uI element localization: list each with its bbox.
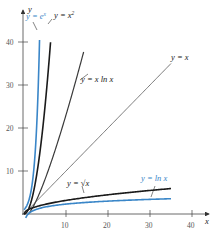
y-tick-label-30: 30 [6,81,14,90]
curve-exp [24,40,40,210]
x-tick-label-10: 10 [61,221,69,230]
curve-id [24,64,171,215]
curve-ln [26,199,171,218]
x-tick-label-40: 40 [187,221,195,230]
label-identity: y = x [170,52,189,62]
y-tick-label-10: 10 [6,167,14,176]
label-sqrt: y = √x [66,178,89,188]
label-x-ln-x: y = x ln x [80,74,113,84]
leader-lines [33,19,155,197]
y-ticks: 10 20 30 40 [6,38,28,176]
label-ln: y = ln x [140,173,167,183]
label-x-squared: y = x2 [53,10,75,21]
x-tick-label-30: 30 [145,221,153,230]
x-axis-label: x [204,216,209,226]
function-growth-chart: x y 10 20 30 40 10 20 30 40 y = ex y = x… [0,0,215,240]
label-exp: y = ex [25,11,47,22]
y-tick-label-20: 20 [6,124,14,133]
x-tick-label-20: 20 [103,221,111,230]
y-tick-label-40: 40 [6,38,14,47]
curves [24,40,171,218]
x-ticks: 10 20 30 40 [61,210,195,230]
